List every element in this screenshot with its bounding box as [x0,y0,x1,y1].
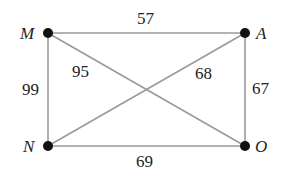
vertex-m [43,28,53,38]
weight-m-o: 95 [72,62,89,81]
weighted-graph-diagram: M A N O 57 99 95 68 67 69 [0,0,294,177]
vertex-label-a: A [255,24,267,43]
vertex-o [240,141,250,151]
vertex-a [240,28,250,38]
weight-m-a: 57 [137,9,155,28]
weight-a-o: 67 [252,79,270,98]
weight-n-a: 68 [195,64,212,83]
weight-m-n: 99 [22,80,39,99]
vertex-label-n: N [22,137,36,156]
vertex-label-o: O [255,137,267,156]
vertex-label-m: M [19,24,35,43]
weight-n-o: 69 [136,152,153,171]
vertex-n [43,141,53,151]
